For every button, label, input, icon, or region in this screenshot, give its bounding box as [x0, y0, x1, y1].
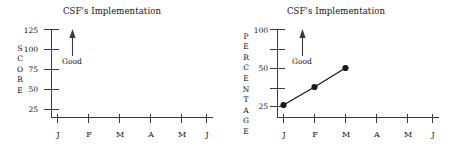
- x-tick-label: J: [277, 130, 291, 139]
- x-tick-label: J: [200, 130, 214, 139]
- chart-panel-right: CSF's Implementation P E R C E N T A G E…: [226, 0, 451, 167]
- chart-panel-left: CSF's Implementation S C O R E 125 100 7…: [0, 0, 225, 167]
- figure-container: CSF's Implementation S C O R E 125 100 7…: [0, 0, 451, 167]
- x-tick-labels-left: J F M A M J: [0, 0, 225, 167]
- x-tick-label: J: [51, 130, 65, 139]
- x-tick-label: A: [144, 130, 158, 139]
- x-tick-label: F: [82, 130, 96, 139]
- x-tick-label: A: [370, 130, 384, 139]
- x-tick-label: M: [401, 130, 415, 139]
- x-tick-labels-right: J F M A M J: [226, 0, 451, 167]
- x-tick-label: J: [426, 130, 440, 139]
- x-tick-label: M: [113, 130, 127, 139]
- x-tick-label: F: [308, 130, 322, 139]
- x-tick-label: M: [339, 130, 353, 139]
- x-tick-label: M: [175, 130, 189, 139]
